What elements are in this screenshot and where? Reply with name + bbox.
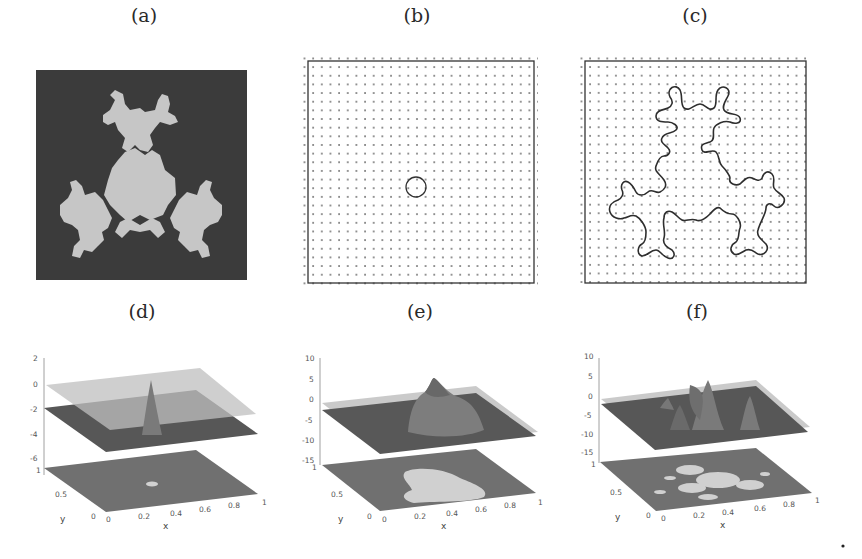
svg-text:0.5: 0.5 — [610, 488, 622, 497]
svg-text:-10: -10 — [581, 430, 593, 439]
sample-point-grid — [302, 57, 538, 287]
svg-text:0.8: 0.8 — [228, 501, 240, 510]
svg-text:0.5: 0.5 — [55, 490, 67, 499]
svg-text:0.5: 0.5 — [331, 490, 343, 499]
svg-text:0: 0 — [309, 395, 314, 404]
svg-text:5: 5 — [309, 375, 314, 384]
svg-text:y: y — [60, 514, 66, 524]
panel-e-surface-plot: 10 5 0 -5 -10 -15 1 0.5 0 0 0.2 0.4 0.6 … — [302, 354, 543, 531]
svg-text:0: 0 — [91, 512, 96, 521]
floor-plane — [44, 450, 258, 512]
svg-text:0: 0 — [382, 515, 387, 524]
svg-text:2: 2 — [33, 354, 38, 363]
svg-text:0: 0 — [646, 511, 651, 520]
svg-text:x: x — [441, 521, 447, 531]
svg-text:1: 1 — [36, 466, 41, 475]
svg-text:1: 1 — [312, 463, 317, 472]
panel-c-grid — [579, 57, 811, 287]
svg-text:1: 1 — [815, 496, 820, 505]
svg-text:-6: -6 — [30, 454, 38, 463]
sample-point-grid — [579, 57, 811, 287]
floor-region — [146, 482, 158, 487]
figure-canvas: 2 0 -2 -4 -6 1 0.5 0 0 0.2 0.4 0.6 0.8 1… — [0, 0, 862, 559]
svg-text:-5: -5 — [584, 411, 592, 420]
svg-text:1: 1 — [262, 498, 267, 507]
svg-text:0.6: 0.6 — [199, 505, 211, 514]
svg-text:-2: -2 — [30, 405, 38, 414]
svg-text:x: x — [720, 520, 726, 530]
svg-text:0.4: 0.4 — [170, 509, 182, 518]
stray-mark — [841, 544, 844, 547]
svg-text:0: 0 — [588, 392, 593, 401]
svg-text:0: 0 — [661, 514, 666, 523]
panel-b-grid — [302, 57, 538, 287]
svg-text:1: 1 — [591, 460, 596, 469]
svg-text:0.8: 0.8 — [783, 500, 795, 509]
svg-text:y: y — [615, 512, 621, 522]
svg-text:5: 5 — [588, 372, 593, 381]
svg-text:0: 0 — [367, 512, 372, 521]
svg-text:1: 1 — [538, 498, 543, 507]
peak-shadow — [425, 378, 450, 397]
svg-text:0.8: 0.8 — [504, 501, 516, 510]
svg-text:0: 0 — [33, 380, 38, 389]
panel-a-image — [36, 70, 247, 280]
panel-d-surface-plot: 2 0 -2 -4 -6 1 0.5 0 0 0.2 0.4 0.6 0.8 1… — [30, 354, 267, 531]
svg-text:-5: -5 — [305, 416, 313, 425]
svg-text:0.2: 0.2 — [414, 512, 426, 521]
svg-text:0.4: 0.4 — [446, 509, 458, 518]
svg-text:-10: -10 — [302, 436, 314, 445]
svg-text:0.4: 0.4 — [722, 508, 734, 517]
svg-text:10: 10 — [305, 354, 315, 363]
svg-text:0.6: 0.6 — [475, 505, 487, 514]
svg-text:-15: -15 — [581, 448, 593, 457]
svg-text:0.2: 0.2 — [693, 511, 705, 520]
panel-f-surface-plot: 10 5 0 -5 -10 -15 1 0.5 — [581, 352, 820, 530]
svg-text:x: x — [163, 521, 169, 531]
svg-text:10: 10 — [584, 352, 594, 361]
svg-text:y: y — [338, 514, 344, 524]
svg-text:-4: -4 — [30, 430, 38, 439]
svg-text:0.2: 0.2 — [138, 512, 150, 521]
svg-text:0.6: 0.6 — [754, 504, 766, 513]
svg-text:0: 0 — [106, 515, 111, 524]
